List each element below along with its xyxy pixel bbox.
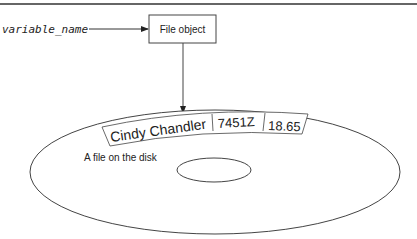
top-rule [0, 3, 417, 5]
record-field-id: 7451Z [217, 114, 255, 131]
disk-spindle-hole [177, 158, 251, 182]
variable-name-label: variable_name [2, 23, 88, 36]
file-object-label: File object [160, 24, 206, 35]
record-field-amount: 18.65 [268, 118, 301, 134]
file-diagram: variable_name File object Cindy Chandler… [0, 0, 417, 239]
disk-caption: A file on the disk [84, 152, 158, 163]
